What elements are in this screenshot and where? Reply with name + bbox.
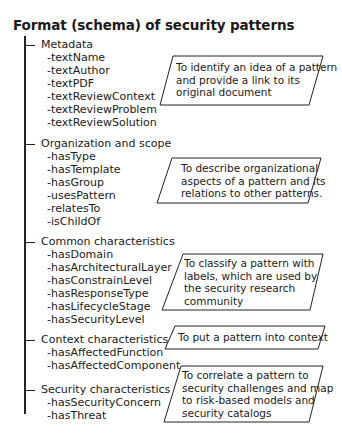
field-item: -textReviewContext bbox=[47, 90, 155, 103]
section-label-context: Context characteristics bbox=[41, 333, 168, 346]
section-label-organization: Organization and scope bbox=[41, 137, 171, 150]
security-branch bbox=[24, 390, 35, 391]
field-item: -relatesTo bbox=[47, 202, 100, 215]
field-item: -textPDF bbox=[47, 77, 94, 90]
section-label-security: Security characteristics bbox=[41, 383, 170, 396]
security-note: To correlate a pattern to security chall… bbox=[182, 369, 333, 419]
field-item: -textName bbox=[47, 51, 105, 64]
field-item: -hasType bbox=[47, 150, 96, 163]
field-item: -hasArchitecturalLayer bbox=[47, 261, 172, 274]
field-item: -isChildOf bbox=[47, 215, 100, 228]
section-label-metadata: Metadata bbox=[41, 38, 93, 51]
section-label-common: Common characteristics bbox=[41, 235, 175, 248]
organization-note: To describe organizational aspects of a … bbox=[181, 162, 325, 200]
common-branch bbox=[24, 242, 35, 243]
field-item: -hasAffectedComponent bbox=[47, 359, 180, 372]
field-item: -hasSecurityConcern bbox=[47, 396, 161, 409]
field-item: -textReviewSolution bbox=[47, 116, 157, 129]
metadata-branch bbox=[24, 45, 35, 46]
field-item: -hasAffectedFunction bbox=[47, 346, 163, 359]
common-note: To classify a pattern with labels, which… bbox=[184, 257, 317, 307]
field-item: -hasResponseType bbox=[47, 287, 149, 300]
organization-branch bbox=[24, 144, 35, 145]
field-item: -usesPattern bbox=[47, 189, 116, 202]
field-item: -hasLifecycleStage bbox=[47, 300, 150, 313]
field-item: -textReviewProblem bbox=[47, 103, 157, 116]
metadata-note: To identify an idea of a pattern and pro… bbox=[176, 61, 337, 99]
field-item: -textAuthor bbox=[47, 64, 110, 77]
field-item: -hasDomain bbox=[47, 248, 113, 261]
field-item: -hasConstrainLevel bbox=[47, 274, 152, 287]
field-item: -hasSecurityLevel bbox=[47, 313, 145, 326]
field-item: -hasThreat bbox=[47, 409, 106, 422]
field-item: -hasGroup bbox=[47, 176, 104, 189]
field-item: -hasTemplate bbox=[47, 163, 121, 176]
context-note: To put a pattern into context bbox=[178, 331, 328, 344]
context-branch bbox=[24, 340, 35, 341]
